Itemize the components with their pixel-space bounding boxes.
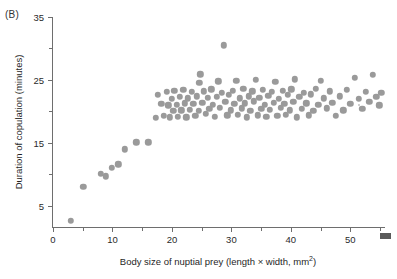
- x-tick-major: [172, 227, 173, 232]
- x-tick-minor: [261, 227, 262, 231]
- data-point: [215, 78, 221, 84]
- y-tick-major: [48, 206, 53, 207]
- data-point: [233, 77, 239, 83]
- data-point: [298, 106, 304, 112]
- data-point: [269, 89, 275, 95]
- data-point: [163, 89, 169, 95]
- data-point: [292, 76, 298, 82]
- x-tick-label: 30: [226, 234, 237, 245]
- x-axis-title: Body size of nuptial prey (length × widt…: [120, 255, 316, 267]
- data-point: [176, 94, 182, 100]
- data-point: [109, 164, 115, 170]
- x-axis-title-suffix: ): [313, 256, 316, 267]
- data-point: [115, 161, 121, 167]
- data-point: [235, 111, 241, 117]
- edge-artifact: [358, 104, 360, 106]
- data-point: [290, 99, 296, 105]
- data-point: [370, 72, 376, 78]
- x-tick-label: 10: [107, 234, 118, 245]
- y-tick-minor: [49, 48, 53, 49]
- data-point: [329, 99, 335, 105]
- data-point: [208, 86, 214, 92]
- data-point: [196, 79, 202, 85]
- y-tick-label: 15: [33, 137, 44, 148]
- data-point: [217, 104, 223, 110]
- data-point: [254, 112, 260, 118]
- data-point: [133, 139, 139, 145]
- x-tick-minor: [380, 227, 381, 231]
- x-tick-major: [231, 227, 232, 232]
- data-point: [336, 93, 342, 99]
- y-tick-label: 35: [33, 12, 44, 23]
- data-point: [315, 101, 321, 107]
- data-point: [285, 92, 291, 98]
- y-tick-major: [48, 17, 53, 18]
- data-point: [122, 146, 128, 152]
- data-point: [244, 114, 250, 120]
- data-point: [310, 108, 316, 114]
- data-point: [180, 87, 186, 93]
- y-tick-major: [48, 143, 53, 144]
- x-tick-minor: [321, 227, 322, 231]
- data-point: [166, 114, 172, 120]
- data-point: [301, 89, 307, 95]
- data-point: [294, 114, 300, 120]
- data-point: [158, 101, 164, 107]
- data-point: [378, 89, 384, 95]
- data-point: [313, 86, 319, 92]
- x-tick-label: 0: [50, 234, 55, 245]
- data-point: [308, 91, 314, 97]
- data-point: [145, 139, 151, 145]
- data-point: [253, 77, 259, 83]
- data-point: [352, 75, 358, 81]
- x-axis-title-prefix: Body size of nuptial prey (length × widt…: [120, 256, 309, 267]
- data-point: [154, 92, 160, 98]
- data-point: [320, 95, 326, 101]
- data-point: [281, 101, 287, 107]
- y-axis-title: Duration of copulation (minutes): [13, 55, 24, 190]
- y-tick-minor: [49, 111, 53, 112]
- data-point: [80, 184, 86, 190]
- data-point: [242, 100, 248, 106]
- data-point: [274, 113, 280, 119]
- x-tick-major: [53, 227, 54, 232]
- data-point: [171, 87, 177, 93]
- data-point: [317, 77, 323, 83]
- data-point: [347, 101, 353, 107]
- data-point: [219, 89, 225, 95]
- data-point: [175, 113, 181, 119]
- x-tick-label: 40: [286, 234, 297, 245]
- data-point: [359, 106, 365, 112]
- x-tick-major: [112, 227, 113, 232]
- data-point: [153, 115, 159, 121]
- data-point: [178, 107, 184, 113]
- data-point: [213, 94, 219, 100]
- data-point: [197, 71, 203, 77]
- data-point: [220, 42, 226, 48]
- data-point: [333, 113, 339, 119]
- data-point: [323, 105, 329, 111]
- data-point: [366, 99, 372, 105]
- data-point: [228, 107, 234, 113]
- plot-area: 5152535 01020304050: [52, 17, 385, 228]
- data-point: [286, 107, 292, 113]
- data-point: [303, 100, 309, 106]
- data-point: [204, 94, 210, 100]
- x-tick-major: [350, 227, 351, 232]
- data-point: [376, 102, 382, 108]
- data-point: [199, 99, 205, 105]
- x-tick-label: 50: [345, 234, 356, 245]
- data-point: [229, 87, 235, 93]
- data-point: [267, 106, 273, 112]
- data-point: [263, 113, 269, 119]
- data-point: [231, 101, 237, 107]
- data-point: [195, 108, 201, 114]
- data-point: [187, 106, 193, 112]
- data-point: [103, 173, 109, 179]
- corner-artifact: [380, 233, 391, 239]
- data-point: [247, 108, 253, 114]
- data-point: [210, 101, 216, 107]
- data-point: [183, 114, 189, 120]
- y-tick-major: [48, 80, 53, 81]
- x-tick-minor: [202, 227, 203, 231]
